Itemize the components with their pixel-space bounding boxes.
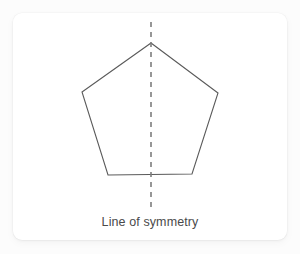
figure-card bbox=[13, 13, 287, 240]
figure-stage: Line of symmetry bbox=[0, 0, 300, 254]
caption-label: Line of symmetry bbox=[0, 215, 300, 230]
